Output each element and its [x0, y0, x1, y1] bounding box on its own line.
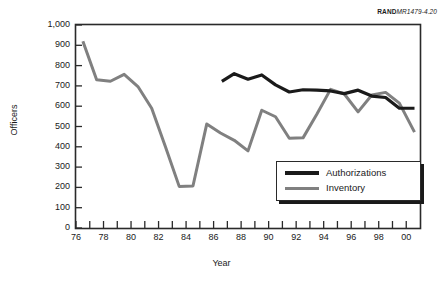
legend-swatch-authorizations	[285, 171, 319, 175]
legend-item-authorizations: Authorizations	[285, 167, 386, 179]
legend-swatch-inventory	[285, 187, 319, 190]
legend-item-inventory: Inventory	[285, 182, 365, 194]
legend-label-authorizations: Authorizations	[326, 168, 386, 178]
legend-label-inventory: Inventory	[326, 183, 365, 193]
chart-legend: Authorizations Inventory	[276, 161, 421, 201]
plot-area	[0, 0, 443, 282]
chart-figure: RANDMR1479-4.20 Officers Year 0100200300…	[0, 0, 443, 282]
